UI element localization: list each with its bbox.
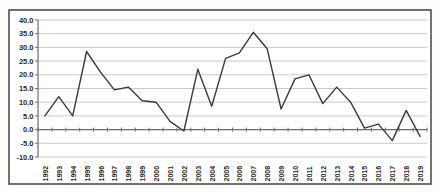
x-tick-label: 2007 [250,166,257,182]
y-tick-label: 40.0 [19,16,34,25]
x-tick-label: 2015 [361,166,368,182]
x-tick-label: 2010 [292,166,299,182]
x-tick-label: 2017 [389,166,396,182]
chart-background [9,10,431,184]
x-tick-label: 2016 [375,166,382,182]
x-tick-label: 2011 [306,166,313,181]
x-tick-label: 2003 [195,166,202,182]
y-tick-label: 30.0 [19,43,34,52]
x-tick-label: 1998 [125,166,132,182]
y-tick-label: 10.0 [19,98,34,107]
scanned-chart-page: 40.035.030.025.020.015.010.05.00.0-5.0-1… [0,0,439,192]
y-tick-label: 0.0 [23,125,33,134]
x-tick-label: 1992 [42,166,49,182]
x-tick-label: 2019 [417,166,424,182]
chart-frame: 40.035.030.025.020.015.010.05.00.0-5.0-1… [0,0,439,192]
x-tick-label: 1995 [84,166,91,182]
x-tick-label: 2002 [181,166,188,182]
x-tick-label: 2006 [236,166,243,182]
x-tick-label: 1999 [139,166,146,182]
y-tick-label: 25.0 [19,57,34,66]
x-tick-label: 1997 [111,166,118,182]
x-tick-label: 1994 [70,166,77,182]
y-tick-label: 15.0 [19,84,34,93]
y-tick-label: -5.0 [21,139,34,148]
x-tick-label: 2004 [209,166,216,182]
line-chart: 40.035.030.025.020.015.010.05.00.0-5.0-1… [0,0,439,192]
x-tick-label: 2005 [223,166,230,182]
x-tick-label: 2013 [334,166,341,182]
x-tick-label: 2009 [278,166,285,182]
y-tick-label: 20.0 [19,70,34,79]
x-tick-label: 2018 [403,166,410,182]
x-tick-label: 2014 [348,166,355,182]
y-tick-label: 5.0 [23,112,33,121]
x-tick-label: 2012 [320,166,327,182]
x-tick-label: 2000 [153,166,160,182]
y-tick-label: 35.0 [19,29,34,38]
x-tick-label: 2008 [264,166,271,182]
x-tick-label: 1996 [98,166,105,182]
x-tick-label: 2001 [167,166,174,182]
x-tick-label: 1993 [56,166,63,182]
y-tick-label: -10.0 [16,153,33,162]
